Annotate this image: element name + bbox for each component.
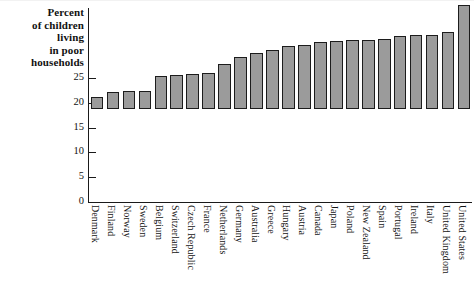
x-axis-label: United States [457, 205, 468, 260]
y-axis-tick-label: 0 [60, 195, 84, 206]
bar [282, 46, 295, 109]
bar [250, 53, 263, 109]
x-axis-label: Portugal [393, 205, 404, 240]
bar [107, 92, 120, 109]
x-axis-label: Finland [106, 205, 117, 236]
bar [442, 32, 455, 109]
bar [458, 5, 471, 109]
bar [170, 75, 183, 109]
x-axis-label: Hungary [281, 205, 292, 241]
bar [362, 40, 375, 109]
bar [234, 57, 247, 109]
x-axis-label: Canada [313, 205, 324, 236]
bar [202, 73, 215, 109]
x-axis-label: Switzerland [170, 205, 181, 254]
bar [330, 41, 343, 109]
x-axis-label: Norway [122, 205, 133, 238]
x-axis-label: Poland [345, 205, 356, 233]
x-axis-label: Germany [234, 205, 245, 243]
x-axis-label: France [202, 205, 213, 233]
bar [410, 35, 423, 109]
bar [346, 40, 359, 109]
x-axis-label: Sweden [138, 205, 149, 237]
y-axis-tick-label: 5 [60, 170, 84, 181]
x-axis-label: Spain [377, 205, 388, 228]
bar [378, 39, 391, 109]
y-axis-tick-label: 20 [60, 96, 84, 107]
x-axis-category-labels: DenmarkFinlandNorwaySwedenBelgiumSwitzer… [89, 205, 472, 296]
bar [123, 91, 136, 109]
y-axis-tick-label: 10 [60, 145, 84, 156]
x-axis-label: Denmark [90, 205, 101, 243]
bar [394, 36, 407, 109]
x-axis-label: Australia [250, 205, 261, 243]
bar [298, 45, 311, 109]
x-axis-label: New Zealand [361, 205, 372, 260]
x-axis-label: United Kingdom [441, 205, 452, 274]
x-axis-label: Ireland [409, 205, 420, 234]
bar [266, 50, 279, 109]
bar-series [89, 0, 472, 203]
bar [186, 74, 199, 109]
x-axis-label: Japan [329, 205, 340, 228]
y-axis-tick-label: 15 [60, 121, 84, 132]
x-axis-label: Netherlands [218, 205, 229, 254]
y-axis-tick-label: 25 [60, 71, 84, 82]
bar-chart: Percent of children living in poor house… [0, 0, 474, 296]
x-axis-label: Austria [297, 205, 308, 235]
bar [218, 64, 231, 109]
bar [426, 35, 439, 109]
x-axis-label: Italy [425, 205, 436, 224]
x-axis-label: Belgium [154, 205, 165, 240]
bar [314, 42, 327, 109]
y-axis-tick-labels: 0510152025 [58, 0, 84, 296]
bar [155, 76, 168, 109]
x-axis-label: Greece [266, 205, 277, 234]
bar [91, 97, 104, 109]
x-axis-label: Czech Republic [186, 205, 197, 270]
bar [139, 91, 152, 109]
